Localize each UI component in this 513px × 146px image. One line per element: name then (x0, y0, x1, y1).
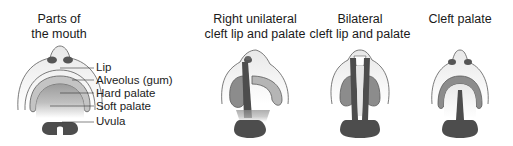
label-uvula: Uvula (96, 115, 125, 128)
normal-mouth-illustration (18, 46, 102, 135)
label-hard-palate: Hard palate (96, 87, 155, 100)
label-soft-palate: Soft palate (96, 100, 151, 113)
mouth-diagrams (0, 0, 513, 146)
bilateral-cleft-illustration (331, 50, 389, 138)
right-unilateral-cleft-illustration (222, 50, 289, 138)
cleft-palate-illustration (432, 50, 489, 138)
label-lip: Lip (96, 61, 111, 74)
label-alveolus: Alveolus (gum) (96, 74, 173, 87)
